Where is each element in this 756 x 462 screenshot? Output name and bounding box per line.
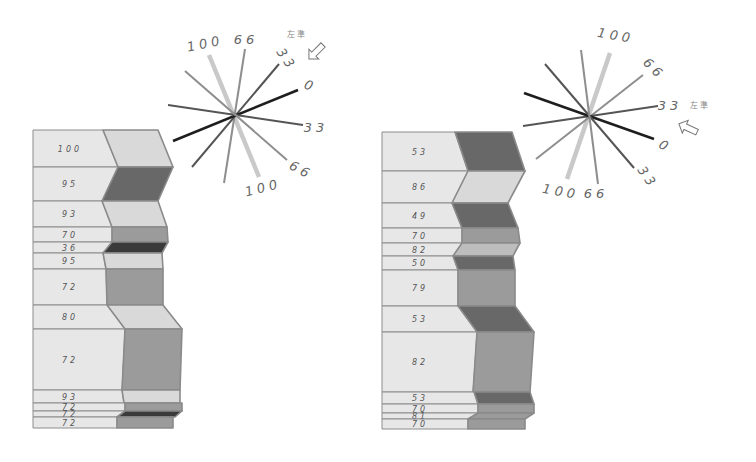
row-value-label: 86 [412, 183, 428, 192]
ribbon-segment [453, 256, 515, 270]
row-value-label: 53 [412, 148, 428, 157]
hollow-arrow-icon [304, 40, 328, 64]
row-value-label: 72 [62, 283, 78, 292]
table-row: 72 [33, 329, 182, 390]
table-row: 53 [382, 392, 534, 404]
scale-value-label: 33 [635, 163, 661, 192]
ribbon-segment [455, 132, 525, 171]
table-row: 82 [382, 332, 534, 392]
table-row: 70 [33, 227, 168, 242]
row-value-label: 72 [62, 356, 78, 365]
row-value-label: 93 [62, 210, 78, 219]
ribbon-segment [453, 243, 520, 256]
ribbon-segment [462, 228, 520, 243]
row-value-label: 70 [62, 231, 78, 240]
row-value-label: 79 [412, 284, 428, 293]
scale-value-label: 0 [656, 137, 674, 156]
scale-value-label: 33 [658, 98, 683, 113]
ribbon-segment [117, 411, 182, 417]
scale-value-label: 33 [274, 45, 300, 74]
scale-value-label: 66 [584, 186, 609, 201]
ribbon-segment [452, 203, 518, 228]
legend-label: 左準 [287, 29, 307, 39]
ribbon-segment [122, 329, 182, 390]
table-row: 70 [382, 419, 525, 429]
scale-line-66 [185, 71, 287, 160]
right-panel: 5386497082507953825370817010066330331006… [382, 25, 710, 429]
scale-value-label: 100 [185, 32, 224, 54]
label-cell [33, 390, 124, 403]
table-row: 79 [382, 270, 515, 306]
row-value-label: 100 [58, 145, 82, 154]
scale-value-label: 66 [234, 32, 259, 47]
row-value-label: 70 [412, 420, 428, 429]
scale-value-label: 33 [304, 120, 329, 135]
table-row: 93 [33, 201, 167, 227]
row-value-label: 95 [62, 257, 78, 266]
diagram-canvas: 1009593703695728072937272721006633033661… [0, 0, 756, 462]
scale-value-label: 0 [302, 77, 319, 95]
ribbon-segment [103, 253, 163, 269]
label-cell [33, 329, 125, 390]
left-panel: 1009593703695728072937272721006633033661… [33, 29, 328, 428]
scale-value-label: 66 [640, 55, 668, 83]
ribbon-segment [473, 332, 534, 392]
ribbon-segment [474, 392, 534, 404]
ribbon-segment [458, 270, 515, 306]
row-value-label: 49 [412, 212, 428, 221]
table-row: 53 [382, 306, 534, 332]
label-cell [382, 392, 478, 404]
table-row: 95 [33, 253, 163, 269]
hollow-arrow-icon [676, 117, 700, 138]
table-row: 49 [382, 203, 518, 228]
row-value-label: 53 [412, 394, 428, 403]
table-row: 82 [382, 243, 520, 256]
ribbon-segment [125, 403, 182, 411]
ribbon-segment [102, 201, 167, 227]
strip-table: 53864970825079538253708170 [382, 132, 534, 429]
row-value-label: 82 [412, 358, 428, 367]
table-row: 50 [382, 256, 515, 270]
legend-label: 左準 [690, 100, 710, 110]
table-row: 70 [382, 404, 534, 414]
row-value-label: 95 [62, 180, 78, 189]
ribbon-segment [122, 390, 180, 403]
table-row: 53 [382, 132, 525, 171]
label-cell [382, 404, 478, 413]
radial-scale: 100663303310066左準 [523, 25, 710, 202]
row-value-label: 82 [412, 246, 428, 255]
ribbon-segment [117, 417, 173, 428]
radial-scale: 100663303366100左準 [168, 29, 328, 199]
table-row: 93 [33, 390, 180, 403]
table-row: 72 [33, 269, 163, 305]
row-value-label: 53 [412, 315, 428, 324]
table-row: 86 [382, 171, 525, 203]
row-value-label: 93 [62, 393, 78, 402]
table-row: 80 [33, 305, 182, 329]
table-row: 100 [33, 130, 173, 167]
strip-table: 100959370369572807293727272 [33, 130, 182, 428]
label-cell [382, 332, 477, 392]
label-cell [33, 411, 125, 417]
row-value-label: 36 [62, 244, 78, 253]
ribbon-segment [106, 269, 163, 305]
label-cell [382, 413, 478, 419]
table-row: 70 [382, 228, 520, 243]
ribbon-segment [468, 413, 534, 419]
row-value-label: 72 [62, 419, 78, 428]
ribbon-segment [112, 227, 168, 242]
row-value-label: 70 [412, 232, 428, 241]
scale-value-label: 66 [287, 158, 316, 183]
ribbon-segment [103, 242, 168, 253]
row-value-label: 50 [412, 259, 428, 268]
ribbon-segment [478, 404, 534, 413]
table-row: 36 [33, 242, 168, 253]
table-row: 95 [33, 167, 173, 201]
row-value-label: 80 [62, 313, 78, 322]
scale-value-label: 100 [541, 181, 580, 202]
scale-value-label: 100 [596, 25, 635, 46]
label-cell [33, 403, 125, 411]
scale-value-label: 100 [243, 176, 282, 199]
table-row: 72 [33, 417, 173, 428]
ribbon-segment [468, 419, 525, 429]
